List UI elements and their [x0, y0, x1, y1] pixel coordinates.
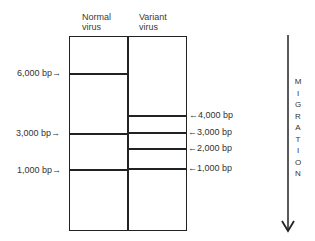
label-normal-1000: 1,000 bp→: [17, 165, 61, 175]
migration-letter: A: [293, 122, 303, 134]
band-variant-3000: [128, 132, 186, 134]
migration-label: M I G R A T I O N: [293, 76, 303, 180]
band-variant-1000: [128, 168, 186, 170]
migration-letter: R: [293, 111, 303, 123]
lane-label-variant: Variant virus: [139, 12, 167, 32]
band-normal-1000: [70, 169, 128, 171]
lane-label-normal-line2: virus: [82, 22, 111, 32]
migration-letter: I: [293, 88, 303, 100]
band-normal-6000: [70, 73, 128, 75]
label-variant-3000: ←3,000 bp: [188, 127, 232, 137]
lane-label-normal: Normal virus: [82, 12, 111, 32]
band-variant-4000: [128, 115, 186, 117]
band-variant-2000: [128, 148, 186, 150]
migration-letter: M: [293, 76, 303, 88]
migration-letter: I: [293, 145, 303, 157]
migration-letter: O: [293, 157, 303, 169]
band-normal-3000: [70, 133, 128, 135]
label-normal-6000: 6,000 bp→: [17, 68, 61, 78]
migration-letter: T: [293, 134, 303, 146]
label-variant-4000: ←4,000 bp: [189, 110, 233, 120]
lane-label-normal-line1: Normal: [82, 12, 111, 22]
migration-letter: G: [293, 99, 303, 111]
migration-letter: N: [293, 168, 303, 180]
label-variant-2000: ←2,000 bp: [188, 143, 232, 153]
lane-label-variant-line1: Variant: [139, 12, 167, 22]
label-normal-3000: 3,000 bp→: [16, 128, 60, 138]
label-variant-1000: ←1,000 bp: [188, 163, 232, 173]
lane-label-variant-line2: virus: [139, 22, 167, 32]
